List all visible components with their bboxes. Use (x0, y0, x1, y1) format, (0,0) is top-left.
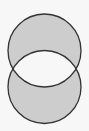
venn-diagram (0, 0, 89, 131)
venn-diagram-svg (0, 0, 89, 131)
